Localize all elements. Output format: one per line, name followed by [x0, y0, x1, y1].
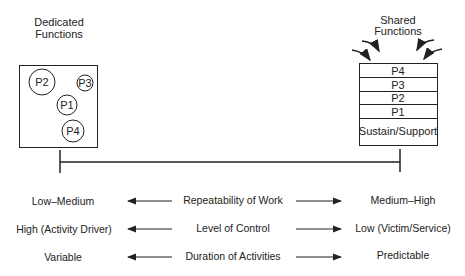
- comparison-row-duration: Variable Duration of Activities Predicta…: [44, 249, 429, 263]
- svg-text:P1: P1: [60, 99, 73, 111]
- svg-text:Duration of Activities: Duration of Activities: [185, 250, 280, 262]
- process-circle-p3: P3: [77, 75, 93, 91]
- svg-text:Level of Control: Level of Control: [196, 222, 270, 234]
- svg-text:Repeatability of Work: Repeatability of Work: [183, 194, 283, 206]
- shared-title-line2: Functions: [374, 25, 422, 37]
- dedicated-title-line2: Functions: [35, 28, 83, 40]
- svg-text:Low (Victim/Service): Low (Victim/Service): [355, 222, 451, 234]
- stack-item-sustain-support: Sustain/Support: [359, 125, 437, 137]
- stack-item-p4: P4: [391, 65, 404, 77]
- stack-item-p2: P2: [391, 92, 404, 104]
- dedicated-title-line1: Dedicated: [34, 16, 84, 28]
- spectrum-line: [60, 149, 400, 173]
- svg-text:P3: P3: [78, 77, 91, 89]
- svg-text:Low–Medium: Low–Medium: [32, 195, 95, 207]
- dedicated-vs-shared-diagram: Dedicated Functions P2 P3 P1 P4 Shared F…: [0, 0, 465, 276]
- process-circle-p4: P4: [62, 120, 84, 142]
- svg-text:P4: P4: [66, 125, 79, 137]
- svg-text:Medium–High: Medium–High: [371, 194, 436, 206]
- process-circle-p1: P1: [57, 95, 77, 115]
- svg-text:P2: P2: [35, 76, 48, 88]
- stack-item-p1: P1: [391, 106, 404, 118]
- comparison-row-repeatability: Low–Medium Repeatability of Work Medium–…: [32, 194, 436, 207]
- svg-text:Predictable: Predictable: [377, 249, 430, 261]
- process-circle-p2: P2: [29, 69, 55, 95]
- comparison-row-control: High (Activity Driver) Level of Control …: [16, 222, 451, 235]
- shared-functions-stack: P4 P3 P2 P1 Sustain/Support: [359, 64, 438, 146]
- incoming-arrows-icon: [352, 40, 442, 60]
- svg-text:Variable: Variable: [44, 251, 82, 263]
- stack-item-p3: P3: [391, 79, 404, 91]
- svg-text:High (Activity Driver): High (Activity Driver): [16, 223, 112, 235]
